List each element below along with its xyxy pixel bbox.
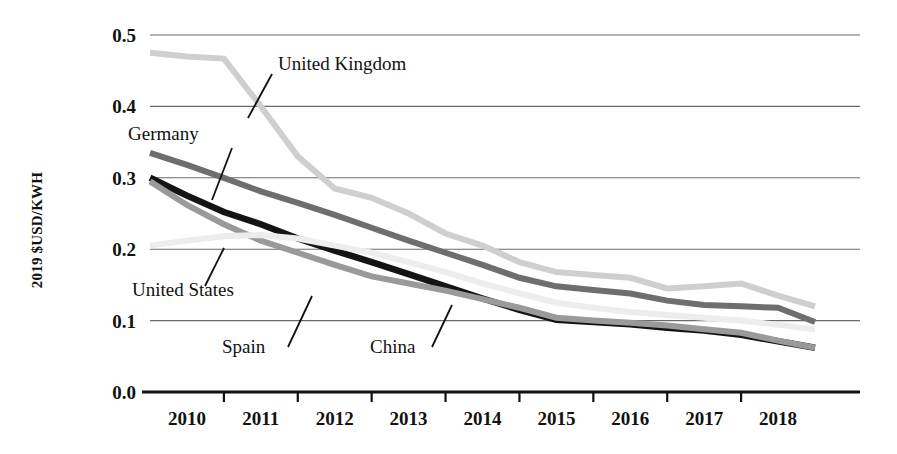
data-series-group [150, 53, 815, 348]
x-axis-tick-label: 2018 [759, 408, 797, 429]
series-annotation-label: Spain [222, 336, 266, 357]
x-axis-tick-label: 2012 [316, 408, 354, 429]
y-axis-tick-label: 0.3 [112, 168, 136, 189]
gridlines [150, 35, 860, 321]
annotation-leader-line [288, 296, 312, 347]
x-axis-tick-label: 2013 [390, 408, 428, 429]
y-axis-tick-labels: 0.00.10.20.30.40.5 [112, 25, 136, 403]
x-axis-tick-label: 2016 [611, 408, 649, 429]
series-line-united-kingdom [150, 53, 815, 306]
series-annotations: United KingdomGermanyUnited StatesSpainC… [128, 53, 452, 357]
y-axis-tick-label: 0.1 [112, 311, 136, 332]
y-axis-tick-label: 0.2 [112, 239, 136, 260]
x-axis-tick-label: 2015 [537, 408, 575, 429]
x-axis-tick-labels: 201020112012201320142015201620172018 [168, 408, 797, 429]
x-axis-tick-label: 2010 [168, 408, 206, 429]
series-annotation-label: Germany [128, 123, 199, 144]
y-axis-title-text: 2019 $USD/KWH [29, 172, 45, 288]
y-axis-tick-label: 0.0 [112, 382, 136, 403]
y-axis-tick-label: 0.5 [112, 25, 136, 46]
y-axis-title: 2019 $USD/KWH [29, 172, 45, 288]
y-axis-tick-label: 0.4 [112, 96, 136, 117]
x-axis-tick-label: 2011 [242, 408, 279, 429]
series-annotation-label: China [370, 336, 416, 357]
chart-container: 0.00.10.20.30.40.5 2019 $USD/KWH 2010201… [0, 0, 897, 454]
x-axis-tick-label: 2017 [685, 408, 724, 429]
line-chart: 0.00.10.20.30.40.5 2019 $USD/KWH 2010201… [0, 0, 897, 454]
annotation-leader-line [432, 305, 452, 347]
series-annotation-label: United Kingdom [278, 53, 406, 74]
x-axis [142, 392, 860, 402]
series-annotation-label: United States [132, 279, 234, 300]
x-axis-tick-label: 2014 [464, 408, 503, 429]
